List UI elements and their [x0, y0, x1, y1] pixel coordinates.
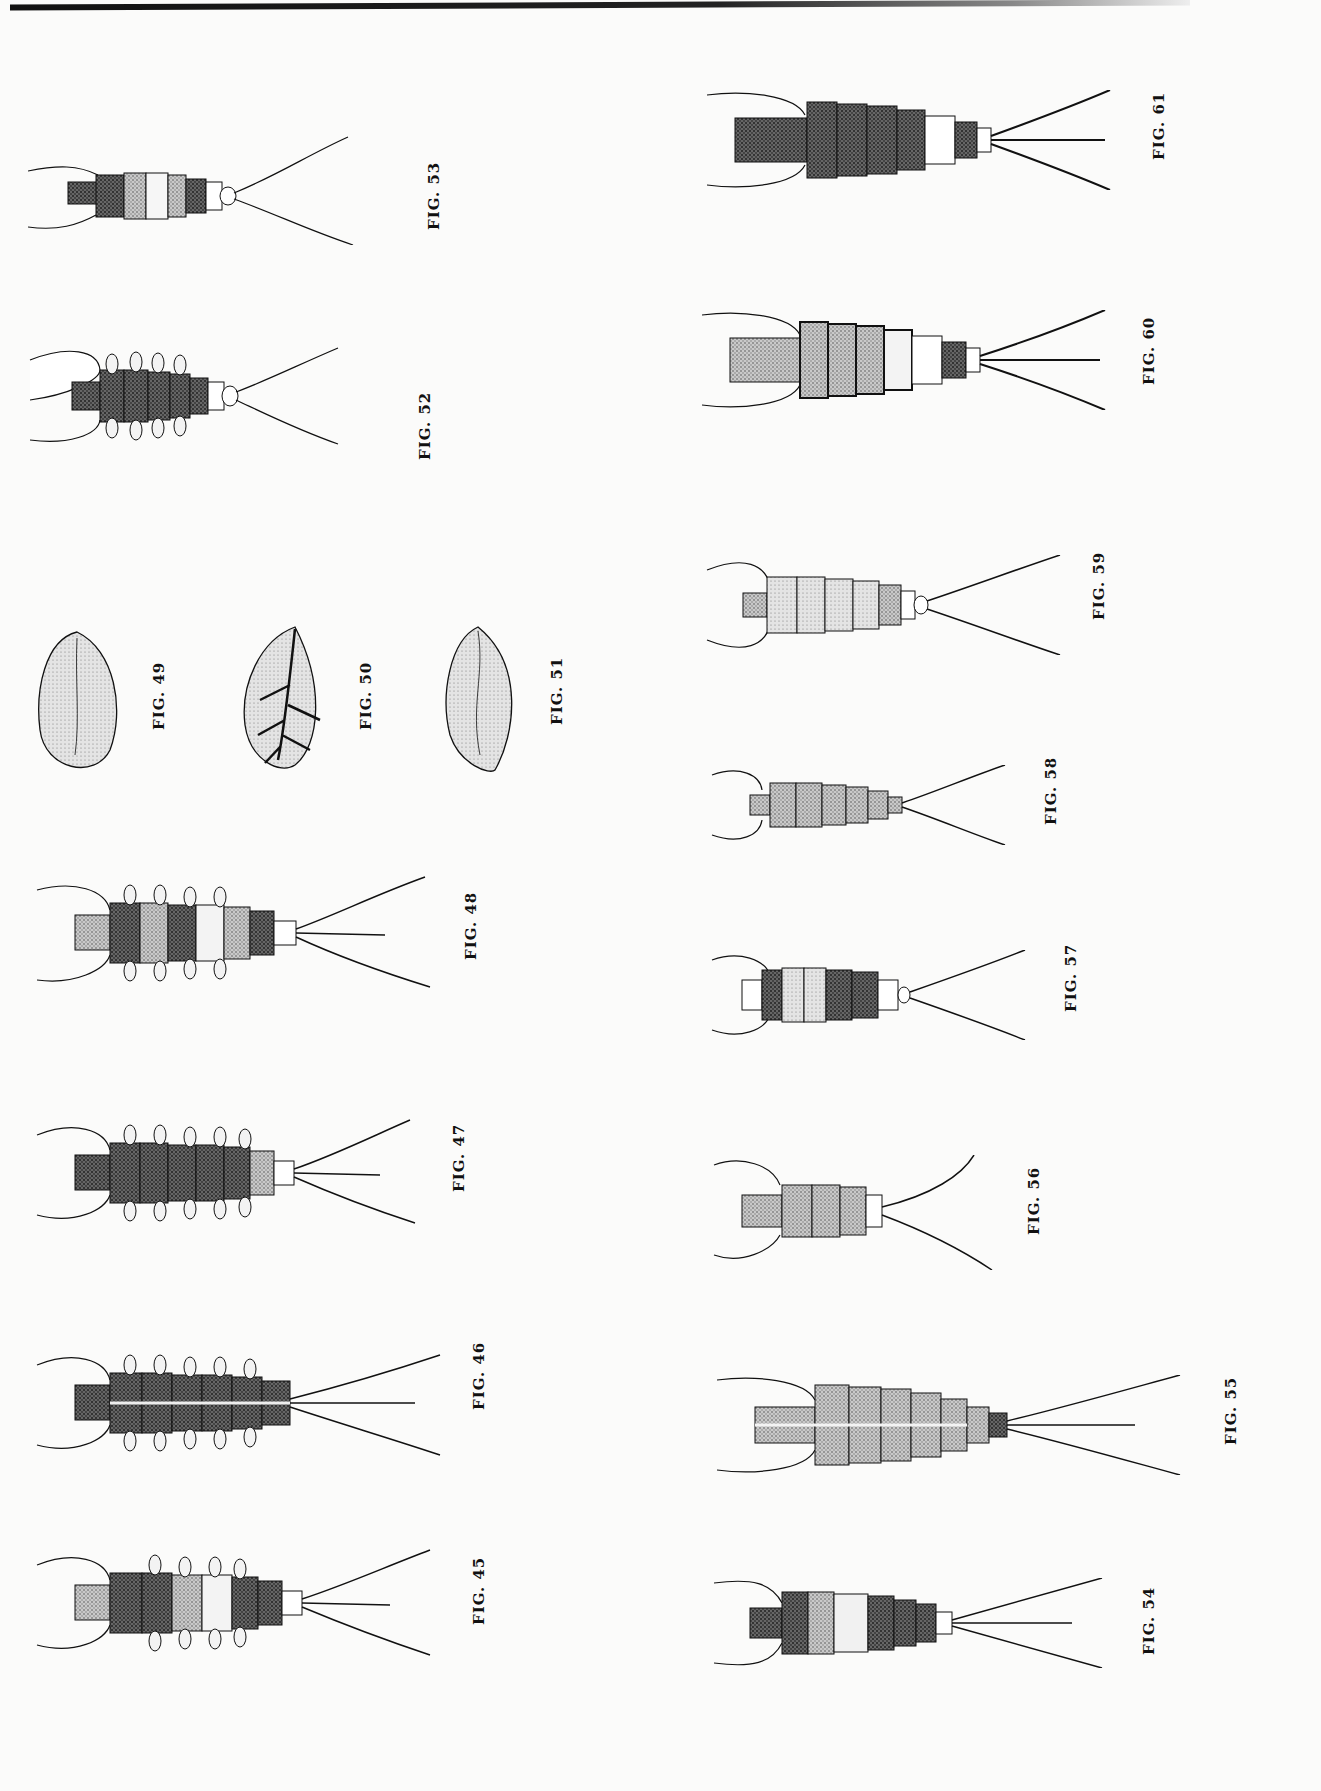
figure-45-nymph [35, 1545, 435, 1660]
figure-47-nymph [35, 1115, 420, 1230]
figure-54-label: FIG. 54 [1140, 1587, 1158, 1655]
figure-55-label: FIG. 55 [1222, 1377, 1240, 1445]
figure-57-label: FIG. 57 [1062, 944, 1080, 1012]
figure-59-nymph [705, 555, 1065, 655]
figure-51-gill [440, 625, 525, 775]
figure-47-label: FIG. 47 [450, 1124, 468, 1192]
figure-56-nymph [712, 1155, 1002, 1270]
figure-56-label: FIG. 56 [1025, 1167, 1043, 1235]
figure-46-nymph [35, 1345, 445, 1460]
page-top-border [10, 0, 1190, 11]
figure-48-label: FIG. 48 [462, 892, 480, 960]
figure-57-nymph [710, 950, 1030, 1040]
figure-50-gill [240, 625, 325, 775]
figure-61-label: FIG. 61 [1150, 92, 1168, 160]
figure-52-nymph [28, 340, 348, 450]
figure-50-label: FIG. 50 [357, 662, 375, 730]
figure-61-nymph [705, 90, 1115, 190]
figure-59-label: FIG. 59 [1090, 552, 1108, 620]
figure-55-nymph [715, 1375, 1185, 1475]
figure-60-label: FIG. 60 [1140, 317, 1158, 385]
figure-53-label: FIG. 53 [425, 162, 443, 230]
figure-45-label: FIG. 45 [470, 1557, 488, 1625]
figure-49-gill [35, 630, 120, 780]
figure-46-label: FIG. 46 [470, 1342, 488, 1410]
figure-53-nymph [28, 135, 358, 245]
figure-51-label: FIG. 51 [548, 657, 566, 725]
figure-58-nymph [710, 765, 1010, 845]
figure-54-nymph [712, 1578, 1112, 1668]
figure-49-label: FIG. 49 [150, 662, 168, 730]
figure-48-nymph [35, 875, 435, 990]
figure-52-label: FIG. 52 [416, 392, 434, 460]
figure-60-nymph [700, 310, 1110, 410]
figure-58-label: FIG. 58 [1042, 757, 1060, 825]
